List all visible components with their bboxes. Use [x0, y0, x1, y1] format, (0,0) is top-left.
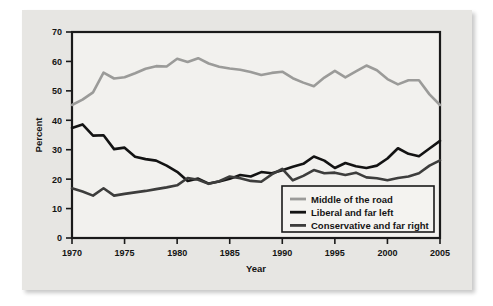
y-tick-label: 10 [52, 204, 62, 214]
x-axis-tick-labels: 19701975198019851990199520002005 [62, 248, 450, 258]
line-chart: 010203040506070 197019751980198519901995… [0, 0, 493, 306]
legend-label: Middle of the road [311, 194, 393, 205]
y-axis-title: Percent [33, 117, 44, 153]
y-tick-label: 30 [52, 145, 62, 155]
legend-label: Liberal and far left [311, 207, 394, 218]
y-axis-tick-labels: 010203040506070 [52, 27, 62, 243]
y-tick-label: 70 [52, 27, 62, 37]
y-tick-label: 20 [52, 175, 62, 185]
y-tick-label: 0 [57, 233, 62, 243]
x-tick-label: 1985 [220, 248, 240, 258]
y-tick-label: 40 [52, 116, 62, 126]
x-tick-label: 2005 [430, 248, 450, 258]
legend-label: Conservative and far right [311, 220, 430, 231]
chart-legend: Middle of the roadLiberal and far leftCo… [282, 186, 434, 232]
y-tick-label: 60 [52, 57, 62, 67]
x-axis-title: Year [246, 263, 266, 274]
x-tick-label: 2000 [377, 248, 397, 258]
y-tick-label: 50 [52, 86, 62, 96]
x-tick-label: 1990 [272, 248, 292, 258]
chart-figure: 010203040506070 197019751980198519901995… [0, 0, 493, 306]
x-tick-label: 1980 [167, 248, 187, 258]
x-tick-label: 1970 [62, 248, 82, 258]
x-tick-label: 1975 [115, 248, 135, 258]
x-tick-label: 1995 [325, 248, 345, 258]
